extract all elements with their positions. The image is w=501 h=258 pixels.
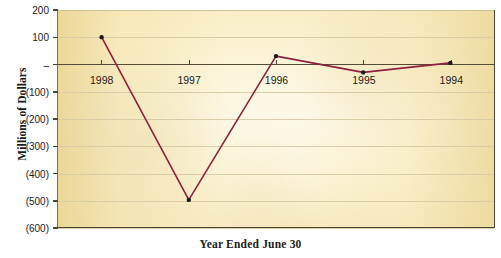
y-tick-label: (500): [26, 195, 49, 206]
y-tick-label: (200): [26, 114, 49, 125]
plot-area: 200100–(100)(200)(300)(400)(500)(600) 19…: [58, 10, 495, 228]
data-point-marker: [274, 54, 278, 58]
data-series-layer: [58, 10, 494, 227]
y-tick-label: (400): [26, 168, 49, 179]
data-point-marker: [448, 61, 452, 65]
y-tick-label: (600): [26, 223, 49, 234]
y-tick-label: (100): [26, 86, 49, 97]
x-tick-label: 1998: [90, 74, 113, 86]
y-tick-label: 200: [32, 5, 49, 16]
x-tick-label: 1997: [177, 74, 200, 86]
x-tick-label: 1994: [440, 74, 463, 86]
gridline: [58, 228, 494, 229]
x-axis-title: Year Ended June 30: [0, 238, 501, 250]
line-chart-figure: Millions of Dollars 200100–(100)(200)(30…: [0, 0, 501, 258]
y-tick-label: –: [43, 59, 49, 70]
y-tick-mark: [53, 227, 58, 229]
x-tick-label: 1996: [265, 74, 288, 86]
x-tick-label: 1995: [352, 74, 375, 86]
data-point-marker: [187, 198, 191, 202]
data-point-marker: [99, 35, 103, 39]
y-tick-label: 100: [32, 32, 49, 43]
y-tick-label: (300): [26, 141, 49, 152]
series-line: [102, 37, 451, 200]
